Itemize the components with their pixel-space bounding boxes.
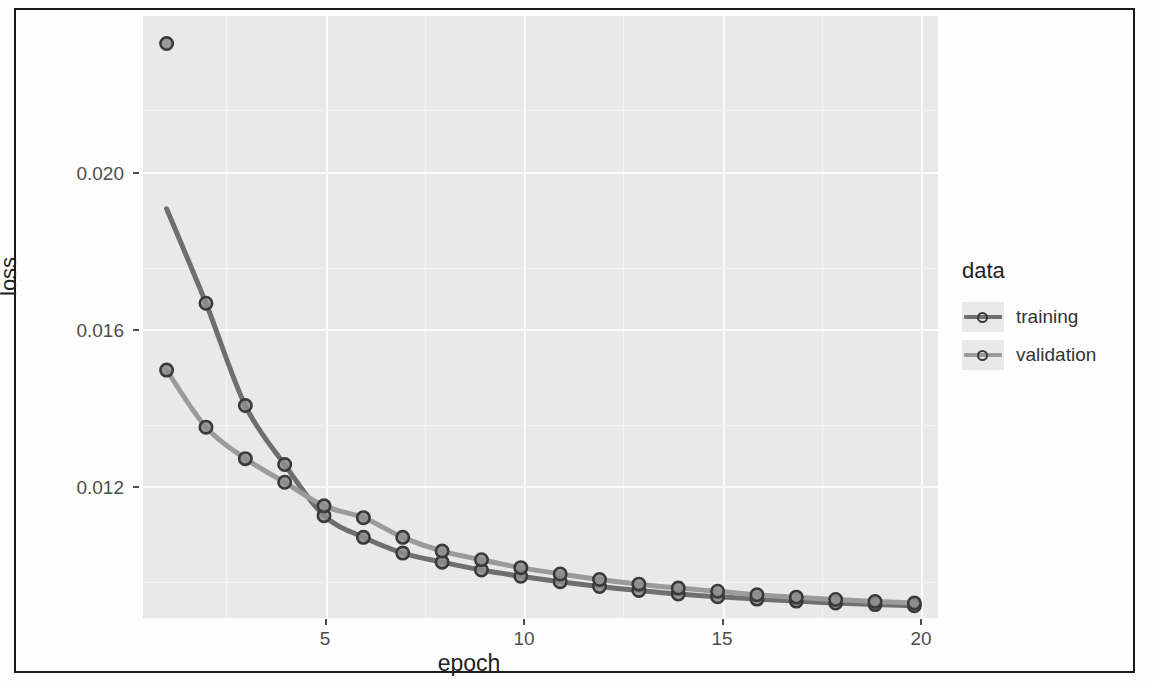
legend-key-training (962, 302, 1004, 332)
data-point (278, 458, 290, 470)
data-point (160, 364, 172, 376)
y-tick-label-1: 0.016 (54, 320, 124, 342)
data-point (593, 573, 605, 585)
series-training (160, 37, 920, 612)
y-tick-label-2: 0.012 (54, 477, 124, 499)
y-tick-mark-2 (133, 486, 139, 488)
x-tick-mark-5 (325, 619, 327, 625)
x-tick-mark-10 (523, 619, 525, 625)
y-tick-mark-1 (133, 329, 139, 331)
training-trend-line (167, 209, 915, 606)
data-point (515, 561, 527, 573)
x-tick-label-10: 10 (504, 628, 544, 650)
data-point (672, 582, 684, 594)
legend-key-validation (962, 340, 1004, 370)
data-point (160, 37, 172, 49)
data-point (436, 545, 448, 557)
legend-point-training (977, 312, 988, 323)
data-point (200, 297, 212, 309)
legend-title: data (962, 258, 1132, 284)
ggplot-figure: loss 0.020 0.016 0.012 (0, 0, 1153, 686)
x-axis-label: epoch (0, 650, 938, 677)
data-point (790, 591, 802, 603)
data-point (397, 531, 409, 543)
data-point (475, 554, 487, 566)
data-point (278, 476, 290, 488)
series-validation (160, 364, 920, 609)
training-points (160, 37, 920, 612)
x-tick-mark-20 (920, 619, 922, 625)
legend-point-validation (977, 350, 988, 361)
data-point (239, 452, 251, 464)
data-point (318, 500, 330, 512)
data-point (751, 589, 763, 601)
legend-label-training: training (1016, 306, 1078, 328)
legend: data training validation (962, 258, 1132, 374)
legend-label-validation: validation (1016, 344, 1096, 366)
legend-item-validation[interactable]: validation (962, 336, 1132, 374)
legend-item-training[interactable]: training (962, 298, 1132, 336)
series-layer (143, 16, 938, 618)
data-point (711, 585, 723, 597)
data-point (554, 568, 566, 580)
data-point (829, 593, 841, 605)
y-tick-label-0: 0.020 (54, 163, 124, 185)
data-point (200, 421, 212, 433)
y-axis-label: loss (0, 257, 22, 296)
plot-panel (143, 16, 938, 618)
data-point (908, 597, 920, 609)
scanned-page: loss 0.020 0.016 0.012 (0, 0, 1153, 686)
data-point (633, 578, 645, 590)
x-tick-label-15: 15 (702, 628, 742, 650)
data-point (357, 531, 369, 543)
x-tick-label-20: 20 (901, 628, 941, 650)
data-point (869, 595, 881, 607)
data-point (397, 547, 409, 559)
x-tick-label-5: 5 (305, 628, 345, 650)
data-point (357, 511, 369, 523)
data-point (239, 399, 251, 411)
x-tick-mark-15 (722, 619, 724, 625)
y-tick-mark-0 (133, 172, 139, 174)
